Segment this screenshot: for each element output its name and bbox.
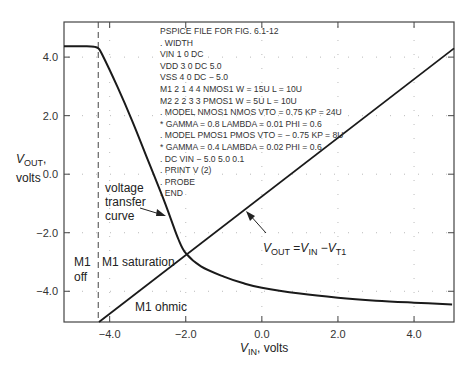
grid-dot xyxy=(109,166,110,167)
vtc-label-line3: curve xyxy=(105,209,135,223)
grid-dot xyxy=(337,292,338,293)
grid-dot xyxy=(306,291,307,292)
grid-dot xyxy=(414,96,415,97)
grid-dot xyxy=(414,222,415,223)
grid-dot xyxy=(96,115,97,116)
grid-dot xyxy=(337,236,338,237)
grid-dot xyxy=(166,291,167,292)
vtc-chart: −4.0−2.00.02.04.0 4.02.00.0−2.0−4.0 PSPI… xyxy=(0,0,472,366)
grid-dot xyxy=(109,292,110,293)
grid-dot xyxy=(124,115,125,116)
grid-dot xyxy=(138,57,139,58)
grid-dot xyxy=(222,57,223,58)
grid-dot xyxy=(418,57,419,58)
grid-dot xyxy=(292,57,293,58)
grid-dot xyxy=(278,232,279,233)
grid-dot xyxy=(414,68,415,69)
grid-dot xyxy=(96,57,97,58)
netlist-line: * GAMMA = 0.8 LAMBDA = 0.01 PHI = 0.6 xyxy=(160,119,322,129)
grid-dot xyxy=(306,174,307,175)
grid-dot xyxy=(292,232,293,233)
grid-dot xyxy=(261,40,262,41)
grid-dot xyxy=(250,232,251,233)
grid-dot xyxy=(334,57,335,58)
grid-dot xyxy=(185,222,186,223)
m1-off-label-line2: off xyxy=(74,270,88,284)
grid-dot xyxy=(261,68,262,69)
grid-dot xyxy=(222,174,223,175)
grid-dot xyxy=(109,40,110,41)
grid-dot xyxy=(390,291,391,292)
grid-dot xyxy=(152,57,153,58)
grid-dot xyxy=(337,208,338,209)
y-axis-sub: OUT xyxy=(24,158,44,168)
netlist-line: M2 2 2 3 3 PMOS1 W = 5U L = 10U xyxy=(160,96,297,106)
grid-dot xyxy=(414,166,415,167)
grid-dot xyxy=(264,57,265,58)
grid-dot xyxy=(110,115,111,116)
grid-dot xyxy=(414,82,415,83)
grid-dot xyxy=(446,115,447,116)
grid-dot xyxy=(362,174,363,175)
grid-dot xyxy=(109,54,110,55)
grid-dot xyxy=(362,232,363,233)
grid-dot xyxy=(414,306,415,307)
netlist-line: M1 2 1 4 4 NMOS1 W = 15U L = 10U xyxy=(160,84,302,94)
m1-ohmic-label: M1 ohmic xyxy=(135,300,187,314)
grid-dot xyxy=(390,57,391,58)
grid-dot xyxy=(376,291,377,292)
grid-dot xyxy=(446,291,447,292)
eq-vout-sub: OUT xyxy=(271,247,291,257)
grid-dot xyxy=(185,278,186,279)
grid-dot xyxy=(82,174,83,175)
grid-dot xyxy=(337,96,338,97)
grid-dot xyxy=(261,82,262,83)
grid-dot xyxy=(414,292,415,293)
netlist-line: . PROBE xyxy=(160,177,195,187)
grid-dot xyxy=(236,232,237,233)
grid-dot xyxy=(110,232,111,233)
netlist-line: VIN 1 0 DC xyxy=(160,49,203,59)
grid-dot xyxy=(348,291,349,292)
grid-dot xyxy=(250,291,251,292)
grid-dot xyxy=(404,57,405,58)
grid-dot xyxy=(414,264,415,265)
grid-dot xyxy=(82,115,83,116)
grid-dot xyxy=(446,232,447,233)
pspice-netlist: PSPICE FILE FOR FIG. 6.1-12. WIDTHVIN 1 … xyxy=(160,26,344,198)
grid-dot xyxy=(348,115,349,116)
grid-dot xyxy=(261,222,262,223)
vtc-arrow-head xyxy=(156,209,166,216)
x-axis-sub: IN xyxy=(248,347,257,357)
grid-dot xyxy=(261,166,262,167)
grid-dot xyxy=(261,194,262,195)
grid-dot xyxy=(82,291,83,292)
grid-dot xyxy=(109,306,110,307)
grid-dot xyxy=(124,57,125,58)
grid-dot xyxy=(236,291,237,292)
grid-dot xyxy=(376,232,377,233)
grid-dot xyxy=(414,236,415,237)
grid-dot xyxy=(110,174,111,175)
grid-dot xyxy=(261,54,262,55)
grid-dot xyxy=(236,174,237,175)
grid-dot xyxy=(109,236,110,237)
grid-dot xyxy=(250,57,251,58)
grid-dot xyxy=(222,291,223,292)
grid-dot xyxy=(404,174,405,175)
x-tick-label: 0.0 xyxy=(254,328,269,340)
grid-dot xyxy=(432,115,433,116)
y-tick-label: 4.0 xyxy=(43,51,58,63)
netlist-line: PSPICE FILE FOR FIG. 6.1-12 xyxy=(160,26,279,36)
x-tick-label: 2.0 xyxy=(330,328,345,340)
grid-dot xyxy=(320,232,321,233)
grid-dot xyxy=(337,82,338,83)
grid-dot xyxy=(166,232,167,233)
y-axis-unit: volts xyxy=(16,171,41,185)
netlist-line: VSS 4 0 DC − 5.0 xyxy=(160,72,228,82)
grid-dot xyxy=(337,40,338,41)
grid-dot xyxy=(390,115,391,116)
grid-dot xyxy=(414,138,415,139)
grid-dot xyxy=(185,292,186,293)
x-axis-unit: , volts xyxy=(257,341,288,355)
